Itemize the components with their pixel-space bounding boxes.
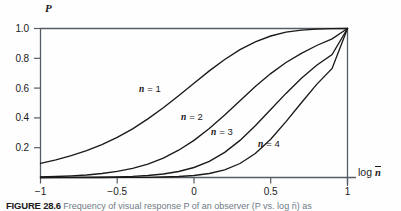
curve-label-n3: n = 3	[211, 126, 233, 137]
figure-caption-text: Frequency of visual response P of an obs…	[63, 201, 311, 211]
curve-label-n1-text: = 1	[144, 83, 161, 94]
curve-label-n4: n = 4	[258, 138, 280, 149]
y-tick-label-5: 0.2	[3, 142, 29, 153]
x-tick-label-3: 0	[179, 186, 209, 197]
curve-label-n4-text: = 4	[263, 138, 280, 149]
figure-caption: FIGURE 28.6 Frequency of visual response…	[6, 200, 400, 211]
y-axis-label: P	[45, 2, 52, 14]
figure-number: FIGURE 28.6	[6, 200, 61, 211]
y-tick-marks	[34, 29, 40, 148]
x-tick-marks	[41, 178, 348, 184]
curve-label-n3-text: = 3	[216, 126, 233, 137]
x-tick-label-1: −1	[26, 186, 56, 197]
x-tick-label-4: 0.5	[256, 186, 286, 197]
y-tick-label-2: 0.8	[3, 53, 29, 64]
x-axis-label: log n	[358, 166, 381, 178]
x-tick-label-2: −0.5	[102, 186, 132, 197]
curve-group	[41, 29, 348, 178]
x-tick-label-5: 1	[333, 186, 363, 197]
n-bar-symbol: n	[375, 166, 381, 178]
curve-label-n1: n = 1	[139, 83, 161, 94]
y-tick-label-4: 0.4	[3, 112, 29, 123]
curve-label-n2: n = 2	[181, 111, 203, 122]
y-tick-label-1: 1.0	[3, 23, 29, 34]
curve-n4	[41, 29, 348, 178]
x-axis-label-prefix: log	[358, 166, 375, 178]
figure-container: P 1.0 0.8 0.6 0.4 0.2 −1 −0.5 0 0.5 1 lo…	[0, 0, 401, 211]
y-tick-label-3: 0.6	[3, 83, 29, 94]
chart-plot-area	[0, 0, 401, 211]
curve-label-n2-text: = 2	[186, 111, 203, 122]
curve-n1	[41, 29, 348, 164]
